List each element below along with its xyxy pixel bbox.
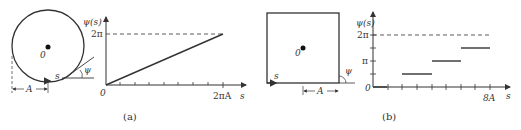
angle-label: ψ [345,66,353,76]
panel-b-plot: ψ(s) π 2π 0 8A s [356,12,511,103]
arc-length-label: s [274,71,279,81]
panel-a-plot: ψ(s) 2π 0 2πA s [83,17,246,101]
x-end-label: 2πA [213,91,232,101]
y-axis-label: ψ(s) [356,18,375,28]
center-label: 0 [295,48,301,58]
arc-length-label: s [55,71,60,81]
origin-label: 0 [100,88,106,98]
x-axis-label: s [240,91,245,101]
x-end-label: 8A [483,93,496,103]
width-label: A [316,86,324,96]
angle-label: ψ [84,65,92,75]
center-dot [46,45,51,50]
y-tick-label-2pi: 2π [91,29,103,39]
panel-a-shape: 0 ψ s A [12,10,94,94]
angle-arc [80,70,82,78]
angle-arc [339,76,346,83]
caption-a: (a) [123,111,137,122]
caption-b: (b) [382,111,396,122]
step-segments [373,48,490,87]
diagram-canvas: 0 ψ s A ψ(s) 2π 0 2πA [0,0,521,130]
y-tick-label-2pi: 2π [357,30,369,40]
width-label: A [25,84,33,94]
x-axis-label: s [506,91,511,101]
panel-b-shape: 0 s ψ A [267,13,355,96]
y-tick-label-pi: π [362,56,368,66]
center-dot [301,46,306,51]
center-label: 0 [40,50,46,60]
origin-label: 0 [365,83,371,93]
linear-psi-line [106,34,223,85]
y-axis-label: ψ(s) [83,17,102,27]
